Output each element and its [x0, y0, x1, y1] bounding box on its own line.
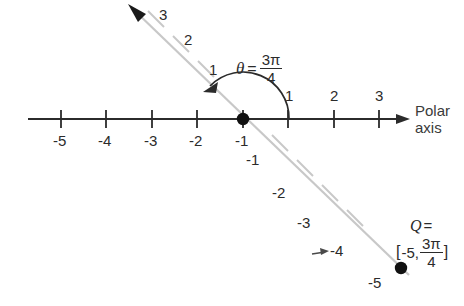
point-q-equals: = [424, 218, 433, 234]
polar-axis-group [28, 110, 410, 128]
polar-tick-label-minus5: -5 [53, 133, 66, 148]
polar-tick-label-minus3: -3 [144, 133, 157, 148]
ray-tick-label-3: 3 [159, 7, 167, 22]
polar-axis-caption: Polar axis [415, 102, 450, 136]
point-q-numerator: 3π [420, 236, 443, 252]
ray-positive-ticks [148, 11, 214, 77]
polar-tick-label-minus2: -2 [189, 133, 202, 148]
polar-diagram-figure: -5 -4 -3 -2 -1 1 2 3 1 2 3 -1 -2 -3 -4 -… [0, 0, 464, 306]
point-q-name-row: Q = [396, 218, 448, 235]
polar-tick-label-1: 1 [285, 88, 293, 103]
ray-negative-ticks [272, 135, 363, 226]
point-q-radius: -5, [401, 245, 419, 261]
theta-numerator: 3π [260, 52, 283, 68]
polar-axis-caption-line1: Polar [415, 102, 450, 119]
pole-point [237, 113, 249, 125]
polar-tick-label-2: 2 [330, 88, 338, 103]
theta-fraction: 3π 4 [260, 52, 283, 85]
polar-tick-label-3: 3 [375, 88, 383, 103]
point-q-open-bracket: [ [396, 244, 400, 261]
theta-denominator: 4 [265, 69, 277, 85]
ray-tick-label-minus3: -3 [297, 215, 310, 230]
point-q-label: Q = [ -5, 3π 4 ] [396, 218, 448, 269]
point-q-close-bracket: ] [444, 244, 448, 261]
polar-axis-arrowhead [396, 114, 410, 124]
theta-symbol: θ [236, 60, 244, 77]
ray-tick-label-1: 1 [209, 62, 217, 77]
terminal-ray-group [128, 4, 409, 275]
theta-equals: = [247, 61, 256, 77]
point-q-name: Q [410, 218, 422, 235]
ray-tick-label-2: 2 [184, 32, 192, 47]
ray-tick-label-minus4: -4 [330, 243, 343, 258]
point-q-coords: [ -5, 3π 4 ] [396, 236, 448, 269]
ray-tick-label-minus5: -5 [368, 275, 381, 290]
point-q-fraction: 3π 4 [420, 236, 443, 269]
diagram-canvas [0, 0, 464, 306]
polar-axis-caption-line2: axis [415, 119, 450, 136]
point-q-denominator: 4 [425, 253, 437, 269]
polar-tick-label-minus4: -4 [98, 133, 111, 148]
ray-tick-label-minus2: -2 [272, 185, 285, 200]
minus-four-leader-arrow [312, 248, 329, 255]
polar-tick-label-minus1: -1 [235, 133, 248, 148]
theta-annotation: θ = 3π 4 [236, 52, 282, 85]
terminal-ray-line [133, 9, 409, 275]
ray-tick-label-minus1: -1 [246, 152, 259, 167]
